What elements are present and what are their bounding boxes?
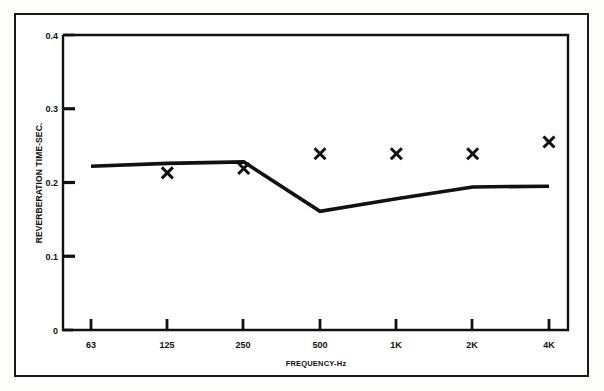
x-tick-label-2K: 2K	[466, 340, 478, 350]
x-axis-title: FREQUENCY-Hz	[286, 359, 347, 368]
x-tick-label-500: 500	[312, 340, 327, 350]
y-axis-ticks	[63, 35, 75, 330]
plot-box-border	[63, 35, 568, 330]
y-tick-label-0.1: 0.1	[45, 252, 58, 262]
y-tick-label-0.2: 0.2	[45, 178, 58, 188]
y-tick-label-0: 0	[53, 326, 58, 336]
data-point-marker	[391, 148, 402, 159]
figure-root: 0 0.1 0.2 0.3 0.4 63 125 250 500 1K 2K 4…	[0, 0, 604, 391]
data-point-marker	[162, 167, 173, 178]
x-tick-label-1K: 1K	[390, 340, 402, 350]
y-tick-label-0.3: 0.3	[45, 104, 58, 114]
data-point-marker	[315, 148, 326, 159]
series-line-measured-curve	[91, 162, 549, 211]
x-axis-ticks	[91, 319, 549, 330]
reverberation-time-chart: 0 0.1 0.2 0.3 0.4 63 125 250 500 1K 2K 4…	[0, 0, 604, 391]
data-point-marker	[238, 163, 249, 174]
x-tick-label-63: 63	[86, 340, 96, 350]
x-tick-label-4K: 4K	[543, 340, 555, 350]
x-axis-tick-labels: 63 125 250 500 1K 2K 4K	[86, 340, 555, 350]
y-axis-tick-labels: 0 0.1 0.2 0.3 0.4	[45, 31, 58, 336]
y-axis-title: REVERBERATION TIME-SEC.	[34, 123, 44, 244]
plot-axes	[63, 35, 568, 330]
series-markers-predicted-points	[162, 136, 555, 178]
data-point-marker	[544, 136, 555, 147]
y-tick-label-0.4: 0.4	[45, 31, 58, 41]
data-point-marker	[467, 148, 478, 159]
x-tick-label-250: 250	[235, 340, 250, 350]
x-tick-label-125: 125	[159, 340, 174, 350]
